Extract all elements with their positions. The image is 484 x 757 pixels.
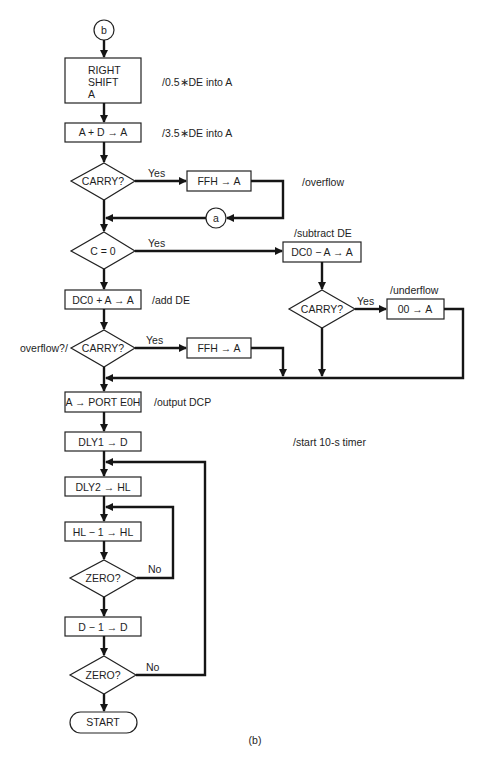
right-shift-line3: A — [88, 88, 95, 100]
zero-decision-2: ZERO? — [70, 656, 136, 694]
dly1-box: DLY1 → D — [65, 432, 141, 451]
edge-label-yes: Yes — [148, 237, 165, 249]
zero1-label: ZERO? — [85, 572, 120, 584]
comment-output-dcp: /output DCP — [154, 396, 211, 408]
port-label: A → PORT E0H — [66, 396, 141, 408]
port-output-box: A → PORT E0H — [65, 392, 141, 412]
comment-overflow-question: overflow?/ — [20, 342, 68, 354]
right-shift-line1: RIGHT — [88, 64, 121, 76]
right-shift-line2: SHIFT — [88, 76, 119, 88]
zero2-label: ZERO? — [85, 669, 120, 681]
right-shift-box: RIGHT SHIFT A — [65, 58, 141, 103]
dec-hl-box: HL − 1 → HL — [65, 522, 141, 541]
zero-a-label: 00 → A — [398, 303, 432, 315]
ffh-box-1: FFH → A — [187, 171, 251, 191]
zero-a-box: 00 → A — [387, 299, 444, 319]
add-box: DC0 + A → A — [65, 290, 141, 309]
comment-right-shift: /0.5∗DE into A — [162, 76, 232, 88]
comment-underflow: /underflow — [390, 284, 439, 296]
carry3-label: CARRY? — [301, 303, 344, 315]
dly2-box: DLY2 → HL — [65, 477, 141, 496]
dec-d-box: D − 1 → D — [65, 617, 141, 636]
dly2-label: DLY2 → HL — [75, 481, 130, 493]
comment-subtract: /subtract DE — [294, 227, 352, 239]
dec-d-label: D − 1 → D — [78, 621, 128, 633]
carry2-label: CARRY? — [82, 342, 125, 354]
comment-add-d: /3.5∗DE into A — [162, 127, 232, 139]
carry-decision-2: CARRY? — [71, 330, 135, 367]
ffh2-label: FFH → A — [197, 342, 240, 354]
add-label: DC0 + A → A — [72, 294, 134, 306]
edge-label-no: No — [148, 563, 162, 575]
carry-decision-1: CARRY? — [71, 163, 135, 200]
comment-add-de: /add DE — [152, 294, 190, 306]
c-zero-decision: C = 0 — [71, 232, 135, 269]
figure-caption: (b) — [249, 734, 262, 746]
ffh-box-2: FFH → A — [187, 338, 251, 358]
edge-label-yes: Yes — [146, 334, 163, 346]
connector-a-label: a — [213, 212, 219, 224]
subtract-label: DC0 − A → A — [291, 246, 353, 258]
edge-label-yes: Yes — [148, 167, 165, 179]
edge-label-no: No — [146, 661, 160, 673]
add-d-label: A + D → A — [79, 126, 128, 138]
start-terminal: START — [70, 712, 137, 733]
dly1-label: DLY1 → D — [78, 436, 128, 448]
dec-hl-label: HL − 1 → HL — [73, 526, 134, 538]
comment-overflow: /overflow — [302, 176, 344, 188]
start-label: START — [86, 716, 120, 728]
carry-decision-3: CARRY? — [289, 290, 355, 328]
ffh1-label: FFH → A — [197, 175, 240, 187]
comment-start-timer: /start 10-s timer — [293, 436, 366, 448]
add-d-box: A + D → A — [65, 123, 141, 142]
c-zero-label: C = 0 — [90, 245, 116, 257]
zero-decision-1: ZERO? — [70, 560, 137, 597]
connector-a: a — [206, 208, 226, 228]
carry1-label: CARRY? — [82, 175, 125, 187]
connector-b: b — [94, 20, 114, 40]
connector-b-label: b — [101, 24, 107, 36]
edge-label-yes: Yes — [357, 295, 374, 307]
subtract-box: DC0 − A → A — [283, 242, 361, 262]
flowchart: b RIGHT SHIFT A /0.5∗DE into A A + D → A… — [0, 0, 484, 757]
flow-arrow — [251, 348, 283, 376]
